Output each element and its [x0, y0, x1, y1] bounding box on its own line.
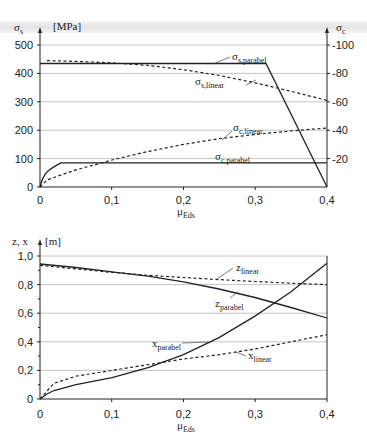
label-sigma-s-linear: σs,linear [195, 75, 225, 90]
series-sigma-s-parabel [40, 64, 327, 188]
y-axis-arrow-icon [38, 239, 42, 245]
svg-text:0,6: 0,6 [18, 307, 33, 319]
svg-text:-60: -60 [332, 96, 348, 108]
svg-text:0: 0 [27, 393, 33, 405]
svg-text:500: 500 [15, 39, 33, 51]
svg-text:0,4: 0,4 [18, 336, 33, 348]
svg-text:0,4: 0,4 [319, 408, 334, 420]
leader-x-linear [236, 352, 246, 356]
bottom-x-tick-labels: 0 0,1 0,2 0,3 0,4 [37, 408, 335, 420]
series-sigma-c-parabel [40, 163, 327, 187]
svg-text:0,3: 0,3 [248, 194, 263, 206]
series-sigma-s-linear [47, 61, 327, 101]
leader-c-linear [222, 131, 232, 140]
label-sigma-c-parabel: σc,parabel [215, 150, 251, 165]
label-x-parabel: xparabel [152, 337, 182, 352]
label-sigma-c-linear: σc,linear [233, 121, 263, 136]
top-axes [37, 27, 330, 190]
top-y-left-tick-labels: 0 100 200 300 400 500 [15, 39, 33, 193]
svg-text:0,2: 0,2 [18, 364, 33, 376]
label-z-parabel: zparabel [215, 297, 244, 312]
svg-text:0,4: 0,4 [319, 194, 334, 206]
y-axis-arrow-icon [38, 27, 42, 33]
svg-text:-100: -100 [332, 39, 354, 51]
svg-text:0,1: 0,1 [104, 194, 119, 206]
svg-text:100: 100 [15, 153, 33, 165]
bottom-chart: 0 0,2 0,4 0,6 0,8 1,0 0 0,1 0,2 0,3 0,4 … [12, 235, 335, 434]
label-z-linear: zlinear [236, 261, 259, 276]
top-x-title: μEds [177, 205, 195, 220]
series-sigma-c-linear [40, 128, 327, 187]
top-y-left-title: σs [14, 21, 23, 36]
svg-text:0: 0 [37, 194, 43, 206]
label-sigma-s-parabel: σs,parabel [232, 50, 267, 65]
bottom-y-title: z, x [12, 235, 28, 247]
bottom-y-unit: [m] [45, 235, 61, 247]
svg-text:0: 0 [37, 408, 43, 420]
svg-text:400: 400 [15, 67, 33, 79]
bottom-x-title: μEds [177, 419, 195, 434]
svg-text:-80: -80 [332, 67, 348, 79]
svg-text:1,0: 1,0 [18, 250, 33, 262]
svg-text:-40: -40 [332, 124, 348, 136]
svg-text:-20: -20 [332, 153, 348, 165]
svg-text:0,8: 0,8 [18, 279, 33, 291]
bottom-gridlines [40, 256, 327, 370]
leader-z-linear [217, 268, 233, 279]
bottom-axes [37, 239, 327, 402]
svg-text:0,1: 0,1 [104, 408, 119, 420]
series-x-linear [40, 335, 327, 399]
svg-text:300: 300 [15, 96, 33, 108]
top-y-right-tick-labels: -20 -40 -60 -80 -100 [332, 39, 354, 165]
top-y-right-title: σc [336, 21, 346, 36]
svg-text:0,3: 0,3 [248, 408, 263, 420]
top-chart: 0 100 200 300 400 500 -20 -40 -60 -80 -1… [14, 20, 354, 220]
label-x-linear: xlinear [248, 349, 272, 364]
charts-canvas: 0 100 200 300 400 500 -20 -40 -60 -80 -1… [0, 0, 367, 446]
top-gridlines [40, 45, 327, 159]
svg-text:0: 0 [27, 181, 33, 193]
y2-axis-arrow-icon [325, 27, 329, 33]
series-x-parabel [40, 263, 327, 399]
svg-text:200: 200 [15, 124, 33, 136]
series-z-parabel [40, 264, 327, 318]
top-y-left-unit: [MPa] [53, 20, 81, 32]
bottom-y-tick-labels: 0 0,2 0,4 0,6 0,8 1,0 [18, 250, 33, 405]
top-x-tick-labels: 0 0,1 0,2 0,3 0,4 [37, 194, 335, 206]
